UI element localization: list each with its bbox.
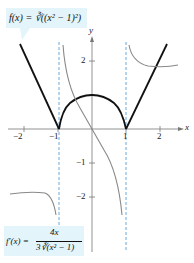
fprime-middle [63, 45, 122, 215]
x-tick-neg1: −1 [49, 131, 59, 141]
figure: −2 −1 1 2 2 −1 −2 x y f(x) = ∛((x² − 1)²… [0, 0, 194, 263]
f-arc [59, 95, 126, 129]
fprime-lhs: f′(x) = [6, 236, 29, 246]
f-left-branch [20, 44, 59, 129]
fprime-label-box: f′(x) = 4x 3∛(x² − 1) [4, 226, 84, 256]
y-tick-neg2: −2 [76, 191, 86, 201]
fprime-numerator: 4x [50, 227, 59, 237]
x-axis-label: x [185, 122, 189, 132]
fprime-right [129, 45, 178, 67]
y-tick-neg1: −1 [76, 157, 86, 167]
y-axis-label: y [89, 25, 93, 35]
y-tick-2: 2 [81, 55, 86, 65]
f-right-branch [126, 44, 167, 129]
fprime-denominator: 3∛(x² − 1) [36, 242, 74, 252]
graph [0, 0, 194, 263]
fprime-left [10, 192, 56, 215]
y-axis-arrow-icon [90, 36, 94, 42]
x-axis-arrow-icon [178, 127, 184, 131]
f-label-box: f(x) = ∛((x² − 1)²) [6, 8, 87, 28]
x-tick-neg2: −2 [13, 131, 23, 141]
x-tick-2: 2 [157, 131, 162, 141]
x-tick-1: 1 [123, 131, 128, 141]
